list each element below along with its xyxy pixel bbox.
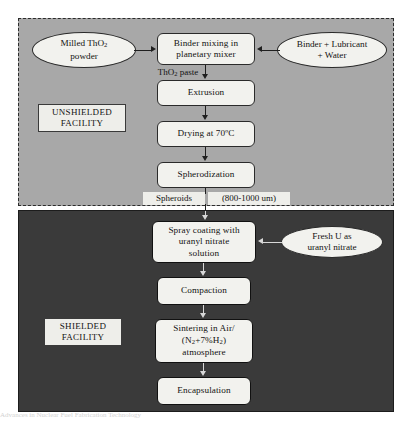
node-binder-lubricant-water-line1: Binder + Lubricant: [297, 39, 368, 50]
node-extrusion-label: Extrusion: [188, 87, 225, 98]
zone-label-unshielded-line1: UNSHIELDED: [52, 107, 112, 118]
node-milled-thoria-powder-line1: Milled ThO2: [61, 38, 108, 51]
edge-milled-to-mixing-arrowhead: [151, 46, 156, 52]
zone-label-shielded: SHIELDED FACILITY: [44, 318, 122, 346]
edge-spray-to-compaction-arrowhead: [200, 271, 206, 276]
node-compaction[interactable]: Compaction: [157, 277, 251, 305]
node-fresh-uranyl-nitrate-line2: uranyl nitrate: [307, 242, 356, 253]
edge-fresh-u-to-spray: [262, 242, 282, 243]
node-spray-coating-line3: solution: [189, 248, 219, 259]
edge-label-to-spray-arrowhead: [202, 215, 208, 220]
stream-label-spheroids: Spheroids: [143, 192, 205, 205]
node-sintering-line1: Sintering in Air/: [173, 323, 234, 334]
edge-mixing-to-extrusion-arrowhead: [202, 74, 208, 79]
zone-label-unshielded-line2: FACILITY: [61, 118, 104, 129]
node-binder-lubricant-water[interactable]: Binder + Lubricant + Water: [277, 32, 387, 68]
stream-label-thoria-paste-text: ThO2 paste: [158, 67, 198, 79]
zone-label-shielded-line1: SHIELDED: [60, 321, 106, 332]
zone-label-unshielded: UNSHIELDED FACILITY: [38, 104, 126, 132]
stream-label-spheroids-part1: Spheroids: [156, 193, 192, 204]
node-binder-mixing-line2: planetary mixer: [176, 49, 235, 60]
node-milled-thoria-powder-line2: powder: [70, 51, 98, 62]
node-encapsulation[interactable]: Encapsulation: [157, 377, 251, 405]
node-binder-mixing-line1: Binder mixing in: [174, 38, 238, 49]
diagram-page: UNSHIELDED FACILITY SHIELDED FACILITY Mi…: [0, 0, 412, 431]
node-binder-mixing[interactable]: Binder mixing in planetary mixer: [157, 33, 255, 65]
node-spray-coating-line1: Spray coating with: [168, 225, 239, 236]
page-bleed-text: Advances in Nuclear Fuel Fabrication Tec…: [0, 411, 412, 429]
edge-binder-to-mixing-arrowhead: [257, 46, 262, 52]
node-sintering-line3: atmosphere: [182, 347, 225, 358]
node-drying-label: Drying at 70ºC: [178, 128, 235, 139]
node-spherodization-label: Spherodization: [177, 169, 234, 180]
stream-label-thoria-paste: ThO2 paste: [147, 67, 209, 79]
edge-binder-to-mixing: [262, 50, 280, 51]
node-spray-coating-line2: uranyl nitrate: [179, 236, 230, 247]
edge-drying-to-spherodization-arrowhead: [202, 156, 208, 161]
node-encapsulation-label: Encapsulation: [177, 385, 230, 396]
node-spray-coating[interactable]: Spray coating with uranyl nitrate soluti…: [152, 221, 256, 263]
edge-sintering-to-encapsulation-arrowhead: [200, 371, 206, 376]
node-compaction-label: Compaction: [181, 285, 227, 296]
edge-compaction-to-sintering-arrowhead: [200, 313, 206, 318]
node-fresh-uranyl-nitrate-line1: Fresh U as: [312, 231, 351, 242]
edge-extrusion-to-drying-arrowhead: [202, 115, 208, 120]
stream-label-spheroid-size: (800-1000 um): [208, 192, 290, 205]
edge-fresh-u-to-spray-arrowhead: [258, 238, 263, 244]
node-binder-lubricant-water-line2: + Water: [317, 50, 346, 61]
node-milled-thoria-powder[interactable]: Milled ThO2 powder: [32, 32, 136, 68]
edge-milled-to-mixing: [134, 50, 152, 51]
zone-label-shielded-line2: FACILITY: [62, 332, 105, 343]
node-spherodization[interactable]: Spherodization: [157, 162, 255, 188]
node-drying[interactable]: Drying at 70ºC: [157, 121, 255, 147]
node-sintering[interactable]: Sintering in Air/ (N2+7%H2) atmosphere: [155, 319, 253, 363]
edge-spherodization-to-label: [205, 188, 206, 194]
node-extrusion[interactable]: Extrusion: [157, 80, 255, 106]
node-fresh-uranyl-nitrate[interactable]: Fresh U as uranyl nitrate: [281, 226, 383, 258]
node-sintering-line2: (N2+7%H2): [182, 335, 226, 348]
stream-label-spheroid-size-text: (800-1000 um): [222, 193, 276, 204]
